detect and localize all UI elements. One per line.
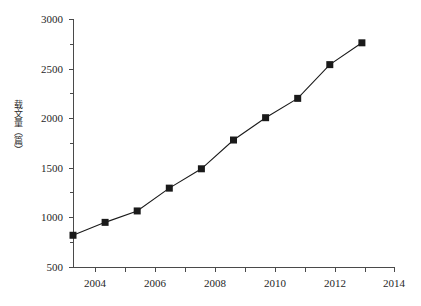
y-tick-label-1000: 1000 [41, 212, 63, 223]
x-tick-2010 [275, 267, 276, 272]
x-tick-2014 [394, 267, 395, 272]
x-tick-2006 [155, 267, 156, 272]
data-point-2013 [358, 39, 365, 46]
data-point-2004 [70, 232, 77, 239]
data-point-2012 [326, 61, 333, 68]
x-tick-2008 [215, 267, 216, 272]
y-tick-label-1500: 1500 [41, 163, 63, 174]
x-tick-label-2010: 2010 [264, 277, 286, 289]
y-axis-title: 载文量（篇） [8, 84, 28, 170]
x-tick-2012 [335, 267, 336, 272]
data-point-2009 [230, 137, 237, 144]
y-tick-label-2500: 2500 [41, 64, 63, 75]
data-point-2011 [294, 95, 301, 102]
x-tick-label-2014: 2014 [383, 277, 405, 289]
x-tick-2009 [245, 267, 246, 272]
x-tick-label-2008: 2008 [204, 277, 226, 289]
series-markers [70, 39, 366, 238]
series-line [73, 43, 362, 235]
data-point-2006 [134, 207, 141, 214]
figure-caption [45, 298, 385, 306]
data-point-2005 [102, 219, 109, 226]
x-tick-label-2006: 2006 [144, 277, 166, 289]
line-chart-figure: 载文量（篇） 500 1000 1500 2000 2500 3000 [0, 0, 421, 306]
x-tick-2004 [95, 267, 96, 272]
data-point-2008 [198, 165, 205, 172]
plot-area: 500 1000 1500 2000 2500 3000 [73, 19, 394, 267]
y-tick-label-500: 500 [47, 262, 64, 273]
data-series-layer [73, 19, 394, 267]
x-tick-label-2012: 2012 [324, 277, 346, 289]
y-tick-500: 500 [69, 267, 74, 268]
y-tick-label-3000: 3000 [41, 14, 63, 25]
x-tick-2005 [125, 267, 126, 272]
x-axis-line [73, 267, 395, 268]
x-tick-label-2004: 2004 [84, 277, 106, 289]
x-tick-2011 [305, 267, 306, 272]
y-tick-label-2000: 2000 [41, 113, 63, 124]
data-point-2007 [166, 185, 173, 192]
x-tick-2013 [365, 267, 366, 272]
x-tick-2007 [185, 267, 186, 272]
data-point-2010 [262, 114, 269, 121]
